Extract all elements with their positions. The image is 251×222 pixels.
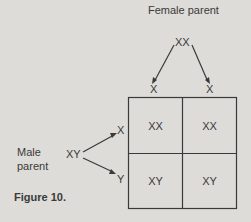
female-parent-label: Female parent [148,4,219,16]
figure-caption: Figure 10. [14,191,66,203]
cell-r2-c1: XY [129,154,182,208]
female-genotype: XX [175,36,190,48]
cell-r1-c1: XX [129,98,182,153]
cell-r1-c2: XX [183,98,236,153]
male-gamete-1: X [117,124,124,136]
male-parent-label-line2: parent [17,160,48,172]
male-genotype: XY [66,148,81,160]
female-gamete-2: X [206,83,213,95]
female-gamete-1: X [150,83,157,95]
male-gamete-2: Y [117,173,124,185]
male-parent-label-line1: Male [17,146,41,158]
cell-r2-c2: XY [183,154,236,208]
